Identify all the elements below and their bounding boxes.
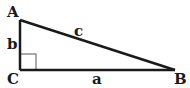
side-label-a: a (92, 70, 102, 88)
side-label-b: b (7, 35, 18, 53)
vertex-label-a: A (6, 3, 19, 21)
side-c (20, 20, 175, 70)
side-label-c: c (74, 22, 83, 40)
right-triangle-diagram: A C B b c a (0, 0, 190, 88)
vertex-label-c: C (7, 70, 19, 88)
right-angle-marker (20, 54, 36, 70)
vertex-label-b: B (174, 70, 187, 88)
